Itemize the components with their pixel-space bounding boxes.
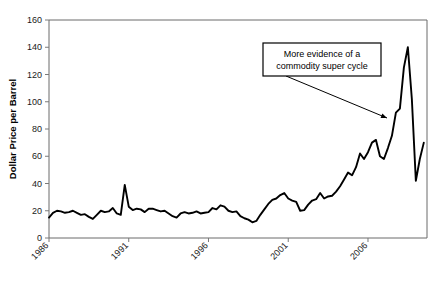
- y-tick-label-160: 160: [27, 15, 42, 25]
- oil-price-chart: 020406080100120140160 198619911996200120…: [0, 0, 442, 287]
- y-tick-label-40: 40: [32, 179, 42, 189]
- y-axis-title: Dollar Price per Barrel: [7, 79, 18, 179]
- y-tick-label-120: 120: [27, 70, 42, 80]
- x-tick-label-2001: 2001: [268, 240, 289, 261]
- chart-canvas: 020406080100120140160 198619911996200120…: [0, 0, 442, 287]
- x-tick-marks: [49, 238, 368, 242]
- callout-text-line-1: More evidence of a: [284, 49, 361, 59]
- y-tick-label-100: 100: [27, 97, 42, 107]
- x-tick-label-2006: 2006: [348, 240, 369, 261]
- annotation-group: More evidence of a commodity super cycle: [263, 43, 387, 118]
- callout-leader-line: [286, 76, 387, 118]
- callout-arrowhead: [381, 113, 387, 118]
- callout-box: [263, 43, 381, 76]
- y-tick-label-80: 80: [32, 124, 42, 134]
- x-tick-label-1986: 1986: [29, 240, 50, 261]
- callout-text-line-2: commodity super cycle: [276, 61, 368, 71]
- y-tick-label-20: 20: [32, 206, 42, 216]
- y-tick-label-60: 60: [32, 151, 42, 161]
- y-tick-label-140: 140: [27, 42, 42, 52]
- y-tick-labels: 020406080100120140160: [27, 15, 42, 243]
- y-tick-marks: [45, 20, 49, 238]
- x-tick-label-1996: 1996: [189, 240, 210, 261]
- x-tick-label-1991: 1991: [109, 240, 130, 261]
- x-tick-labels: 19861991199620012006: [29, 240, 369, 261]
